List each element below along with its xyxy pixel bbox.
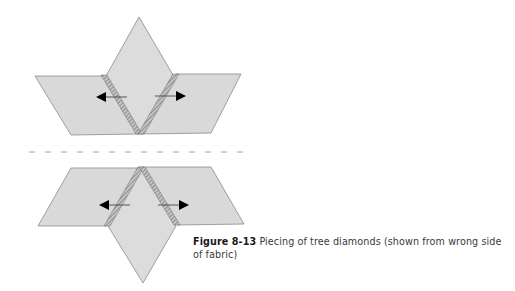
top-assembly [35,17,241,135]
bottom-assembly [38,167,244,283]
figure-caption: Figure 8-13 Piecing of tree diamonds (sh… [193,235,505,261]
tree-diamond-piecing-figure: Figure 8-13 Piecing of tree diamonds (sh… [0,0,515,291]
figure-label: Figure 8-13 [193,236,256,247]
